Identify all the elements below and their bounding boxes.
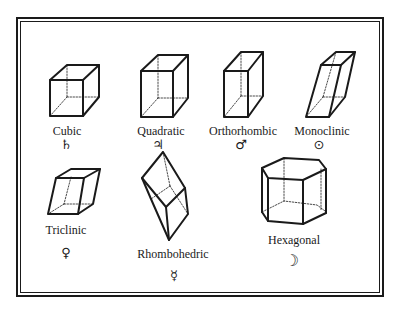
label-rhombohedric: Rhombohedric: [137, 247, 208, 261]
label-triclinic: Triclinic: [46, 223, 87, 237]
label-monoclinic: Monoclinic: [294, 124, 349, 138]
crystal-drawings: [0, 0, 396, 315]
moon-symbol-icon: ☽: [285, 254, 299, 268]
label-hexagonal: Hexagonal: [268, 233, 320, 247]
label-orthorhombic: Orthorhombic: [209, 124, 277, 138]
monoclinic-crystal-icon: [306, 52, 355, 117]
triclinic-crystal-icon: [48, 169, 100, 214]
mars-symbol-icon: ♂: [235, 138, 247, 152]
cubic-crystal-icon: [50, 65, 99, 116]
label-quadratic: Quadratic: [137, 124, 184, 138]
mercury-symbol-icon: ☿: [170, 269, 178, 283]
sun-symbol-icon: ⊙: [314, 138, 325, 152]
orthorhombic-crystal-icon: [224, 52, 263, 117]
venus-symbol-icon: ♀: [61, 246, 71, 260]
quadratic-crystal-icon: [141, 55, 188, 117]
hexagonal-crystal-icon: [262, 158, 326, 224]
figure-page: Cubic ♄ Quadratic ♃ Orthorhombic ♂ Monoc…: [0, 0, 396, 315]
jupiter-symbol-icon: ♃: [152, 138, 164, 152]
rhombohedric-crystal-icon: [142, 152, 188, 240]
label-cubic: Cubic: [53, 124, 82, 138]
saturn-symbol-icon: ♄: [60, 138, 72, 152]
